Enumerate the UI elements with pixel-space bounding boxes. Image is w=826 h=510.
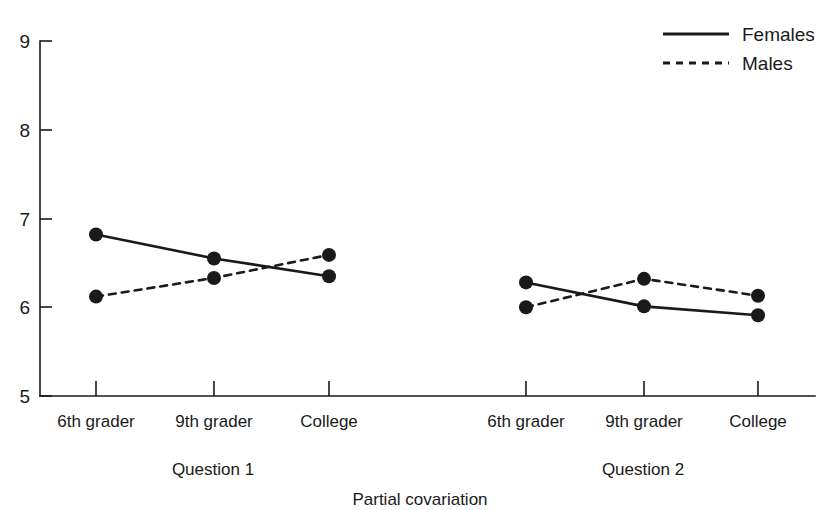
data-point-females-q1-1 — [207, 251, 221, 265]
y-tick-label-9: 9 — [0, 32, 30, 51]
plot-canvas — [0, 0, 826, 510]
y-tick-label-8: 8 — [0, 121, 30, 140]
data-point-males-q1-1 — [207, 271, 221, 285]
data-point-males-q2-1 — [637, 272, 651, 286]
data-point-males-q1-2 — [322, 248, 336, 262]
x-axis-title: Partial covariation — [352, 491, 487, 508]
series-lines — [96, 234, 758, 315]
data-point-males-q2-2 — [751, 289, 765, 303]
group-label-question-2: Question 2 — [602, 461, 684, 478]
legend-swatches — [663, 34, 729, 63]
x-tick-label-q1-6th: 6th grader — [57, 413, 135, 430]
data-point-males-q2-0 — [519, 300, 533, 314]
legend-label-females: Females — [742, 25, 815, 44]
x-axis-ticks — [96, 381, 758, 396]
axis-lines — [40, 41, 815, 396]
chart-figure: 9 8 7 6 5 6th grader 9th grader College … — [0, 0, 826, 510]
y-tick-label-5: 5 — [0, 387, 30, 406]
x-tick-label-q2-6th: 6th grader — [487, 413, 565, 430]
data-point-males-q1-0 — [89, 290, 103, 304]
data-point-females-q2-1 — [637, 299, 651, 313]
data-point-females-q1-2 — [322, 269, 336, 283]
x-tick-label-q1-9th: 9th grader — [175, 413, 253, 430]
x-tick-label-q2-9th: 9th grader — [605, 413, 683, 430]
y-axis-ticks — [40, 41, 52, 396]
legend-label-males: Males — [742, 54, 793, 73]
data-point-females-q2-0 — [519, 275, 533, 289]
y-tick-label-6: 6 — [0, 298, 30, 317]
x-tick-label-q2-college: College — [729, 413, 787, 430]
data-point-females-q1-0 — [89, 227, 103, 241]
x-tick-label-q1-college: College — [300, 413, 358, 430]
data-point-females-q2-2 — [751, 308, 765, 322]
y-tick-label-7: 7 — [0, 210, 30, 229]
group-label-question-1: Question 1 — [172, 461, 254, 478]
